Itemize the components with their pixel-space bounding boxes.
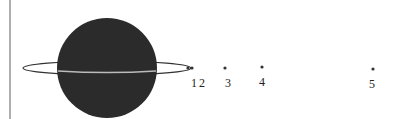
diagram-canvas <box>0 0 395 119</box>
moon-label-2: 2 <box>199 77 205 89</box>
moon-dot-3 <box>223 66 226 69</box>
moon-label-3: 3 <box>225 77 231 89</box>
moon-dot-5 <box>371 67 374 70</box>
moon-dot-1 <box>186 66 189 69</box>
moon-label-1: 1 <box>191 77 197 89</box>
moons-group <box>186 65 374 70</box>
planet-body <box>57 18 157 118</box>
moon-label-4: 4 <box>259 76 265 88</box>
moon-label-5: 5 <box>369 78 375 90</box>
moon-dot-4 <box>260 65 263 68</box>
moon-dot-2 <box>190 66 193 69</box>
planet-diagram: 1 2 3 4 5 <box>0 0 395 119</box>
